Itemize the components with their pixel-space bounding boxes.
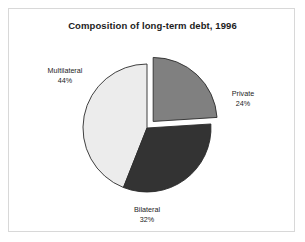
pie-label-multilateral-name: Multilateral xyxy=(22,66,108,76)
pie-label-private: Private 24% xyxy=(214,89,272,110)
chart-figure: Composition of long-term debt, 1996 Mult… xyxy=(0,0,305,242)
pie-slice-private[interactable] xyxy=(153,57,217,121)
pie-label-bilateral-name: Bilateral xyxy=(104,205,190,215)
pie-label-multilateral-value: 44% xyxy=(22,76,108,86)
pie-label-private-value: 24% xyxy=(214,99,272,109)
pie-label-bilateral-value: 32% xyxy=(104,215,190,225)
pie-label-multilateral: Multilateral 44% xyxy=(22,66,108,87)
pie-label-bilateral: Bilateral 32% xyxy=(104,205,190,226)
pie-label-private-name: Private xyxy=(214,89,272,99)
